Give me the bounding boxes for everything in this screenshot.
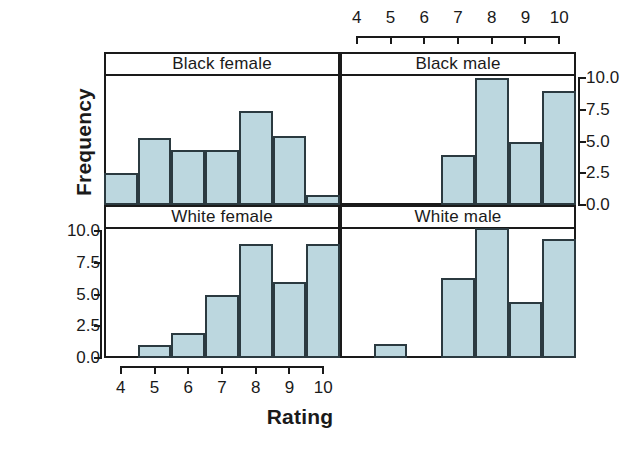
y-tick-label-2-5: 2.5 (586, 163, 610, 183)
bar-white-male-8 (475, 228, 509, 358)
x-axis-title: Rating (200, 405, 400, 429)
bar-white-female-7 (205, 295, 239, 359)
y-tick-label-0-0: 0.0 (586, 195, 610, 215)
trellis-histogram-figure: Frequency Rating 45678910 45678910 0.02.… (0, 0, 639, 451)
bar-black-female-9 (273, 136, 307, 205)
x-tick-label-9: 9 (285, 378, 294, 398)
x-tick-label-7: 7 (453, 8, 462, 28)
bar-black-female-5 (138, 138, 172, 205)
x-tick-label-10: 10 (314, 378, 333, 398)
bar-white-female-8 (239, 244, 273, 358)
y-axis-spine-top-row (578, 77, 580, 206)
bar-white-male-9 (509, 302, 543, 358)
panel-strip-white-female: White female (104, 205, 340, 229)
y-axis-ticks-top-row: 0.02.55.07.510.0 (586, 0, 639, 451)
bar-black-male-9 (509, 142, 543, 206)
x-axis-spine-bottom-row (120, 366, 324, 368)
bar-black-male-10 (542, 91, 576, 205)
panel-strip-black-female: Black female (104, 52, 340, 76)
bar-white-male-7 (441, 278, 475, 358)
bar-black-female-4 (104, 173, 138, 205)
y-tick-label-10-0: 10.0 (586, 68, 619, 88)
x-tick-label-10: 10 (550, 8, 569, 28)
x-axis-spine-top-row (356, 36, 560, 38)
panel-black-male (340, 74, 576, 205)
panel-strip-label: Black male (415, 54, 500, 74)
plot-area-white-female (106, 229, 338, 356)
x-tick-label-4: 4 (352, 8, 361, 28)
x-tick-label-7: 7 (217, 378, 226, 398)
x-tick-label-6: 6 (420, 8, 429, 28)
bar-black-female-6 (171, 150, 205, 205)
x-tick-label-4: 4 (116, 378, 125, 398)
bar-white-female-9 (273, 282, 307, 358)
bar-white-female-5 (138, 345, 172, 358)
x-tick-label-8: 8 (487, 8, 496, 28)
plot-area-black-female (106, 76, 338, 203)
y-tick-label-5-0: 5.0 (586, 132, 610, 152)
panel-white-female (104, 227, 340, 358)
panel-white-male (340, 227, 576, 358)
x-tick-label-9: 9 (521, 8, 530, 28)
x-tick-label-5: 5 (386, 8, 395, 28)
plot-area-black-male (342, 76, 574, 203)
panel-strip-white-male: White male (340, 205, 576, 229)
panel-strip-black-male: Black male (340, 52, 576, 76)
x-tick-label-6: 6 (184, 378, 193, 398)
bar-white-male-10 (542, 239, 576, 358)
x-tick-label-5: 5 (150, 378, 159, 398)
y-axis-spine-bottom-row (100, 230, 102, 359)
panel-strip-label: White male (414, 207, 501, 227)
x-tick-label-8: 8 (251, 378, 260, 398)
plot-area-white-male (342, 229, 574, 356)
panel-strip-label: White female (171, 207, 273, 227)
bar-black-female-10 (306, 195, 340, 205)
y-tick-label-7-5: 7.5 (586, 100, 610, 120)
bar-black-female-8 (239, 111, 273, 205)
bar-black-male-7 (441, 155, 475, 205)
y-axis-ticks-bottom-row: 0.02.55.07.510.0 (0, 0, 100, 451)
panel-strip-label: Black female (172, 54, 272, 74)
bar-white-female-6 (171, 333, 205, 358)
bar-black-female-7 (205, 150, 239, 205)
bar-white-female-10 (306, 244, 340, 358)
bar-black-male-8 (475, 78, 509, 205)
bar-white-male-5 (374, 344, 408, 358)
panel-black-female (104, 74, 340, 205)
